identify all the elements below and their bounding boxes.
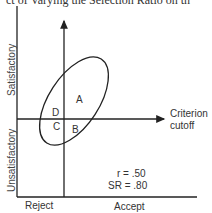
satisfactory-label: Satisfactory <box>6 44 17 96</box>
scatter-ellipse <box>26 45 122 156</box>
cutoff-label: cutoff <box>170 120 194 131</box>
criterion-label: Criterion <box>170 108 208 119</box>
region-a-label: A <box>76 94 83 105</box>
reject-label: Reject <box>25 200 53 211</box>
unsatisfactory-label: Unsatisfactory <box>6 129 17 192</box>
region-b-label: B <box>72 124 79 135</box>
sr-value: SR = .80 <box>108 180 147 191</box>
selection-diagram <box>0 0 212 213</box>
accept-label: Accept <box>114 201 145 212</box>
region-d-label: D <box>52 107 59 118</box>
region-c-label: C <box>53 121 60 132</box>
r-value: r = .50 <box>117 168 146 179</box>
